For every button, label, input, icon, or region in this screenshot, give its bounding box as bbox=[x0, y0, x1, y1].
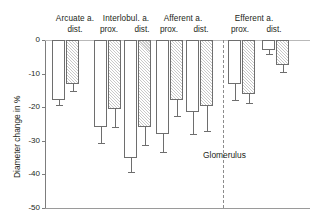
error-bar-stem bbox=[163, 134, 164, 151]
group-subheader-interlobular-prox: prox. bbox=[93, 25, 125, 35]
group-subheader-efferent-prox: prox. bbox=[224, 25, 256, 35]
chart-container: Arcuate a. dist. Interlobul. a. prox. di… bbox=[0, 0, 315, 224]
bar-interlobul-a-dist-hatched bbox=[138, 40, 151, 127]
error-bar-stem bbox=[283, 65, 284, 72]
error-bar-stem bbox=[115, 109, 116, 127]
error-bar-stem bbox=[177, 100, 178, 115]
y-tick-label-minus10: -10 bbox=[20, 70, 40, 78]
glomerulus-label: Glomerulus bbox=[203, 150, 246, 160]
bar-interlobul-a-prox-hatched bbox=[108, 40, 121, 109]
error-bar-stem bbox=[73, 84, 74, 91]
y-tick-minus10 bbox=[42, 74, 45, 75]
error-bar-cap bbox=[246, 103, 253, 104]
bar-efferent-a-prox-white bbox=[228, 40, 241, 84]
y-tick-label-minus30: -30 bbox=[20, 137, 40, 145]
y-tick-label-minus40: -40 bbox=[20, 170, 40, 178]
error-bar-stem bbox=[193, 112, 194, 134]
error-bar-stem bbox=[207, 106, 208, 131]
y-tick-minus40 bbox=[42, 174, 45, 175]
bar-efferent-a-dist-hatched bbox=[276, 40, 289, 65]
group-header-afferent: Afferent a. bbox=[155, 14, 211, 24]
error-bar-cap bbox=[232, 100, 239, 101]
error-bar-cap bbox=[190, 134, 197, 135]
y-tick-label-minus20: -20 bbox=[20, 103, 40, 111]
error-bar-cap bbox=[142, 145, 149, 146]
y-tick-minus30 bbox=[42, 141, 45, 142]
bar-afferent-a-prox-white bbox=[156, 40, 169, 134]
error-bar-stem bbox=[145, 127, 146, 144]
group-header-interlobular: Interlobul. a. bbox=[96, 14, 156, 24]
y-tick-label-0: 0 bbox=[20, 36, 40, 44]
bar-interlobul-a-prox-white bbox=[94, 40, 107, 127]
bar-afferent-a-dist-hatched bbox=[200, 40, 213, 106]
bar-afferent-a-prox-hatched bbox=[170, 40, 183, 100]
bar-arcuate-a-dist-hatched bbox=[66, 40, 79, 84]
group-subheader-efferent-dist: dist. bbox=[258, 25, 290, 35]
group-header-arcuate: Arcuate a. bbox=[48, 14, 102, 24]
bar-afferent-a-dist-white bbox=[186, 40, 199, 112]
error-bar-cap bbox=[98, 143, 105, 144]
error-bar-cap bbox=[160, 152, 167, 153]
y-tick-0 bbox=[42, 40, 45, 41]
error-bar-cap bbox=[128, 172, 135, 173]
error-bar-stem bbox=[101, 127, 102, 143]
y-tick-minus50 bbox=[42, 208, 45, 209]
bar-arcuate-a-dist-white bbox=[52, 40, 65, 100]
y-axis-line bbox=[45, 40, 46, 209]
error-bar-stem bbox=[249, 94, 250, 103]
error-bar-cap bbox=[70, 91, 77, 92]
group-subheader-afferent-dist: dist. bbox=[185, 25, 217, 35]
group-header-efferent: Efferent a. bbox=[226, 14, 282, 24]
error-bar-cap bbox=[204, 131, 211, 132]
y-tick-label-minus50: -50 bbox=[20, 204, 40, 212]
bar-efferent-a-dist-white bbox=[262, 40, 275, 50]
error-bar-cap bbox=[174, 116, 181, 117]
bar-efferent-a-prox-hatched bbox=[242, 40, 255, 94]
error-bar-cap bbox=[112, 127, 119, 128]
y-tick-minus20 bbox=[42, 107, 45, 108]
error-bar-cap bbox=[280, 72, 287, 73]
glomerulus-divider-line bbox=[223, 40, 224, 208]
group-subheader-afferent-prox: prox. bbox=[153, 25, 185, 35]
error-bar-stem bbox=[235, 84, 236, 100]
x-axis-line bbox=[45, 208, 310, 209]
bar-interlobul-a-dist-white bbox=[124, 40, 137, 158]
error-bar-stem bbox=[131, 158, 132, 172]
error-bar-cap bbox=[266, 54, 273, 55]
error-bar-cap bbox=[56, 105, 63, 106]
